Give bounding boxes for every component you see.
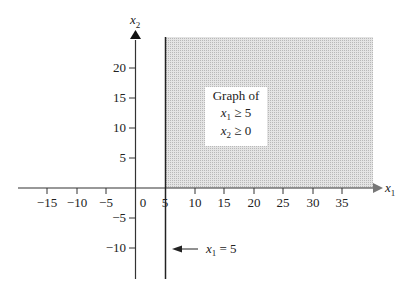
y-axis-arrow-icon (130, 30, 141, 39)
x-axis-label: x1 (384, 180, 395, 198)
svg-text:15: 15 (113, 90, 126, 105)
chart: Graph of x1 ≥ 5 x2 ≥ 0 x1 x2 −15 −10 −5 … (0, 0, 411, 294)
svg-text:25: 25 (277, 195, 290, 210)
y-ticks (129, 68, 135, 248)
svg-text:20: 20 (248, 195, 261, 210)
svg-text:20: 20 (113, 60, 126, 75)
svg-text:5: 5 (120, 150, 127, 165)
svg-text:15: 15 (218, 195, 231, 210)
left-arrow-icon (172, 246, 182, 253)
x-ticks (47, 188, 342, 194)
svg-text:0: 0 (140, 195, 147, 210)
y-tick-labels: 20 15 10 5 −5 −10 (106, 60, 126, 255)
x-axis-arrow-icon (373, 183, 383, 193)
svg-text:−5: −5 (99, 195, 113, 210)
annotation-line2: x2 ≥ 0 (220, 123, 251, 140)
svg-text:35: 35 (336, 195, 349, 210)
svg-text:10: 10 (113, 120, 126, 135)
svg-text:−10: −10 (106, 240, 126, 255)
feasible-region (165, 37, 373, 188)
svg-text:30: 30 (307, 195, 320, 210)
svg-text:10: 10 (189, 195, 202, 210)
y-axis-label: x2 (129, 12, 140, 30)
x-tick-labels: −15 −10 −5 0 5 10 15 20 25 30 35 (37, 195, 349, 210)
annotation-line1: x1 ≥ 5 (220, 105, 251, 122)
svg-text:5: 5 (162, 195, 169, 210)
svg-text:−15: −15 (37, 195, 57, 210)
svg-text:−5: −5 (112, 210, 126, 225)
svg-text:−10: −10 (67, 195, 87, 210)
constraint-label: x1 = 5 (205, 241, 237, 258)
annotation-title: Graph of (213, 88, 260, 103)
